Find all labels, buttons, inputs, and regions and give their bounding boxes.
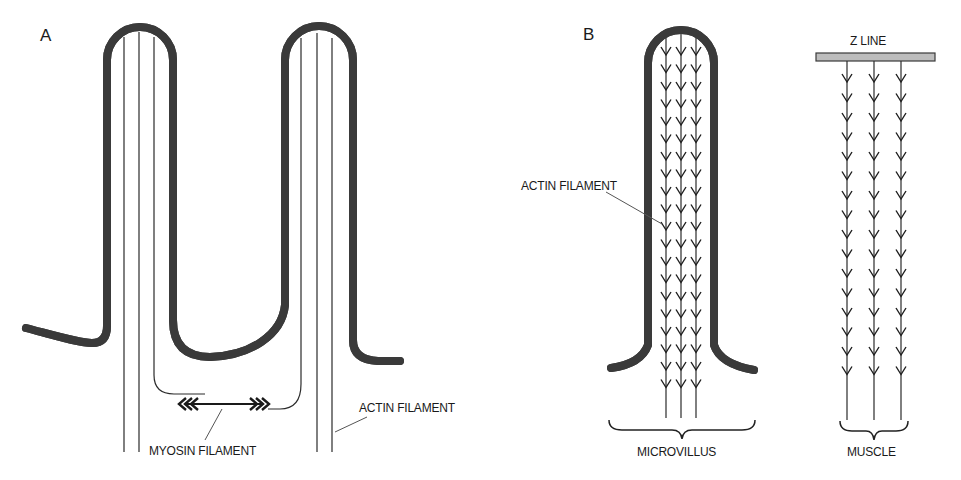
panel-b: B ACTIN FILAMENT MICROVILLUS Z LINE MUSC…: [521, 25, 935, 459]
muscle-actin-filaments: [842, 61, 906, 420]
panel-a: A: [26, 26, 456, 458]
actin-filament-label-a: ACTIN FILAMENT: [359, 401, 456, 415]
actin-leader-a: [335, 417, 367, 432]
muscle-diagram: Z LINE: [816, 34, 935, 420]
actin-leader-b: [606, 192, 662, 224]
panel-a-label: A: [40, 26, 52, 45]
microvillus-actin-filaments: [661, 34, 701, 418]
myosin-filament-label: MYOSIN FILAMENT: [149, 444, 257, 458]
panel-a-membrane: [26, 26, 400, 361]
microvillus-a-left: [124, 32, 205, 452]
z-line-label: Z LINE: [850, 34, 886, 48]
panel-b-label: B: [583, 25, 594, 44]
myosin-leader: [205, 409, 222, 440]
microvillus-a-right: [268, 33, 332, 452]
myosin-filament: [179, 398, 269, 410]
microvillus-caption: MICROVILLUS: [637, 445, 716, 459]
muscle-caption: MUSCLE: [847, 445, 896, 459]
microvillus-b: [611, 30, 754, 418]
actin-microvillus-diagram: A: [0, 0, 961, 480]
z-line-bar: [816, 53, 935, 61]
muscle-brace: [840, 421, 908, 440]
actin-filament-label-b: ACTIN FILAMENT: [521, 179, 618, 193]
microvillus-brace: [609, 420, 755, 439]
